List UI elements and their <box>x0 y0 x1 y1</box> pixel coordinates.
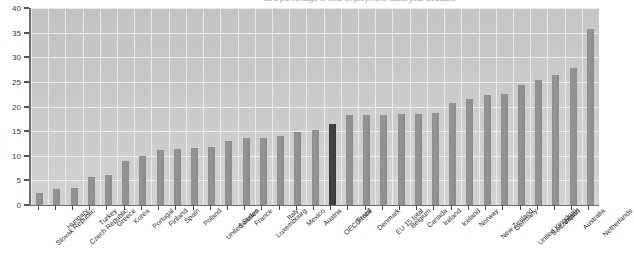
bar <box>484 95 491 205</box>
bar <box>501 94 508 205</box>
bar <box>243 138 250 205</box>
x-axis-tick-label: Poland <box>201 207 222 227</box>
bar <box>346 115 353 205</box>
bar-series <box>31 8 599 205</box>
bar <box>398 114 405 205</box>
bar <box>380 115 387 205</box>
bar <box>277 136 284 205</box>
bar <box>312 130 319 205</box>
bar <box>139 156 146 205</box>
bar <box>122 161 129 205</box>
bar <box>535 80 542 205</box>
bar <box>208 147 215 205</box>
bar <box>105 175 112 205</box>
bar <box>363 115 370 205</box>
chart-title: as a percentage of total employment, lat… <box>150 0 570 3</box>
x-axis-tick-label: Australia <box>581 207 606 231</box>
bar <box>432 113 439 205</box>
x-axis-labels: Slovak RepublicHungaryCzech RepublicTurk… <box>0 207 600 262</box>
bar <box>174 149 181 205</box>
bar <box>71 188 78 205</box>
x-axis-tick-label: Austria <box>322 207 343 227</box>
bar <box>518 85 525 205</box>
x-axis-tick-label: Brazil <box>355 207 373 224</box>
bar <box>466 99 473 205</box>
bar <box>570 68 577 205</box>
bar <box>88 177 95 205</box>
bar <box>587 29 594 205</box>
bar <box>157 150 164 205</box>
bar <box>294 132 301 205</box>
bar <box>225 141 232 205</box>
bar <box>260 138 267 205</box>
bar <box>191 148 198 205</box>
bar <box>552 75 559 206</box>
bar <box>449 103 456 205</box>
x-axis-tick-label: Mexico <box>305 207 326 227</box>
bar <box>415 114 422 205</box>
x-axis-tick-label: Japan <box>562 207 581 225</box>
plot-area <box>29 8 599 206</box>
bar <box>53 189 60 205</box>
y-axis-ticks <box>0 0 29 205</box>
bar <box>36 193 43 205</box>
bar <box>329 124 336 205</box>
